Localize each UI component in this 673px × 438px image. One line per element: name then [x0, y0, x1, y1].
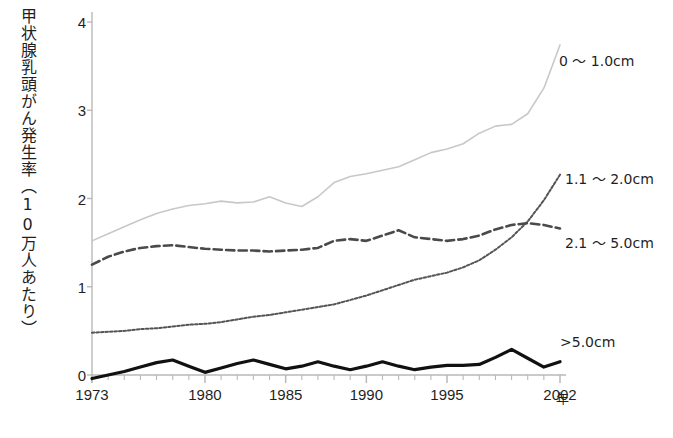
x-axis-tick-label: 1980	[188, 386, 221, 403]
x-axis-tick-label: 1973	[75, 386, 108, 403]
x-axis-unit-label: 年	[556, 388, 569, 407]
series-label-2: 1.1 ～ 2.0cm	[565, 168, 654, 188]
x-axis-tick-label: 1995	[430, 386, 463, 403]
series-label-4: >5.0cm	[560, 334, 615, 350]
x-axis-tick-label: 1985	[269, 386, 302, 403]
series-label-3: 2.1 ～ 5.0cm	[565, 232, 654, 252]
x-axis-tick-label: 1990	[350, 386, 383, 403]
series-label-1: 0 ～ 1.0cm	[559, 50, 634, 70]
thyroid-papillary-cancer-incidence-chart: 甲状腺乳頭がん発生率（10万人あたり） 01234 19731980198519…	[0, 0, 673, 438]
